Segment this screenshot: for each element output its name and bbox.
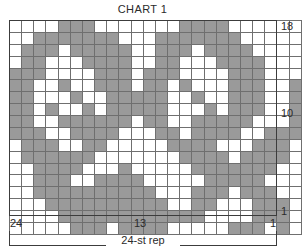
stitch-cell[interactable] [265, 68, 277, 80]
stitch-cell[interactable] [228, 163, 240, 175]
stitch-cell[interactable] [265, 32, 277, 44]
stitch-cell[interactable] [70, 21, 82, 33]
stitch-cell[interactable] [155, 21, 167, 33]
stitch-cell[interactable] [240, 151, 252, 163]
stitch-cell[interactable] [22, 211, 34, 223]
stitch-cell[interactable] [95, 163, 107, 175]
stitch-cell[interactable] [155, 187, 167, 199]
stitch-cell[interactable] [143, 116, 155, 128]
stitch-cell[interactable] [168, 44, 180, 56]
stitch-cell[interactable] [204, 80, 216, 92]
stitch-cell[interactable] [168, 139, 180, 151]
stitch-cell[interactable] [107, 127, 119, 139]
stitch-cell[interactable] [265, 116, 277, 128]
stitch-cell[interactable] [46, 211, 58, 223]
stitch-cell[interactable] [82, 116, 94, 128]
stitch-cell[interactable] [10, 32, 22, 44]
stitch-cell[interactable] [119, 127, 131, 139]
stitch-cell[interactable] [204, 199, 216, 211]
stitch-cell[interactable] [204, 139, 216, 151]
stitch-cell[interactable] [277, 127, 289, 139]
stitch-cell[interactable] [277, 32, 289, 44]
stitch-cell[interactable] [22, 116, 34, 128]
stitch-cell[interactable] [192, 187, 204, 199]
stitch-cell[interactable] [10, 151, 22, 163]
stitch-cell[interactable] [216, 32, 228, 44]
stitch-cell[interactable] [58, 21, 70, 33]
stitch-cell[interactable] [240, 92, 252, 104]
stitch-cell[interactable] [95, 68, 107, 80]
stitch-cell[interactable] [107, 56, 119, 68]
stitch-cell[interactable] [216, 211, 228, 223]
stitch-cell[interactable] [155, 32, 167, 44]
stitch-cell[interactable] [289, 211, 301, 223]
stitch-cell[interactable] [168, 32, 180, 44]
stitch-cell[interactable] [168, 175, 180, 187]
stitch-cell[interactable] [216, 116, 228, 128]
stitch-cell[interactable] [119, 104, 131, 116]
stitch-cell[interactable] [155, 68, 167, 80]
stitch-cell[interactable] [22, 56, 34, 68]
stitch-cell[interactable] [192, 32, 204, 44]
stitch-cell[interactable] [204, 92, 216, 104]
stitch-cell[interactable] [253, 175, 265, 187]
stitch-cell[interactable] [34, 127, 46, 139]
stitch-cell[interactable] [22, 80, 34, 92]
stitch-cell[interactable] [155, 44, 167, 56]
stitch-cell[interactable] [10, 187, 22, 199]
stitch-cell[interactable] [228, 211, 240, 223]
stitch-cell[interactable] [95, 127, 107, 139]
stitch-cell[interactable] [289, 199, 301, 211]
stitch-cell[interactable] [46, 56, 58, 68]
stitch-cell[interactable] [131, 139, 143, 151]
stitch-cell[interactable] [46, 175, 58, 187]
stitch-cell[interactable] [253, 151, 265, 163]
stitch-cell[interactable] [58, 104, 70, 116]
stitch-cell[interactable] [107, 163, 119, 175]
stitch-cell[interactable] [46, 116, 58, 128]
stitch-cell[interactable] [192, 211, 204, 223]
stitch-cell[interactable] [228, 21, 240, 33]
stitch-cell[interactable] [131, 44, 143, 56]
stitch-cell[interactable] [82, 163, 94, 175]
stitch-cell[interactable] [10, 21, 22, 33]
stitch-cell[interactable] [10, 127, 22, 139]
stitch-cell[interactable] [131, 21, 143, 33]
stitch-cell[interactable] [277, 175, 289, 187]
stitch-cell[interactable] [107, 44, 119, 56]
stitch-cell[interactable] [119, 68, 131, 80]
stitch-cell[interactable] [22, 187, 34, 199]
stitch-cell[interactable] [289, 187, 301, 199]
stitch-cell[interactable] [70, 104, 82, 116]
stitch-cell[interactable] [22, 127, 34, 139]
stitch-cell[interactable] [228, 199, 240, 211]
stitch-cell[interactable] [192, 139, 204, 151]
stitch-cell[interactable] [216, 175, 228, 187]
stitch-cell[interactable] [192, 80, 204, 92]
stitch-cell[interactable] [119, 139, 131, 151]
stitch-cell[interactable] [180, 104, 192, 116]
stitch-cell[interactable] [180, 68, 192, 80]
stitch-cell[interactable] [155, 211, 167, 223]
stitch-cell[interactable] [216, 187, 228, 199]
stitch-cell[interactable] [228, 104, 240, 116]
stitch-cell[interactable] [289, 80, 301, 92]
stitch-cell[interactable] [46, 139, 58, 151]
stitch-cell[interactable] [277, 80, 289, 92]
stitch-cell[interactable] [143, 80, 155, 92]
stitch-cell[interactable] [253, 211, 265, 223]
stitch-cell[interactable] [22, 151, 34, 163]
stitch-cell[interactable] [70, 80, 82, 92]
stitch-cell[interactable] [46, 80, 58, 92]
stitch-cell[interactable] [10, 116, 22, 128]
stitch-cell[interactable] [192, 44, 204, 56]
stitch-cell[interactable] [240, 44, 252, 56]
stitch-cell[interactable] [265, 175, 277, 187]
stitch-cell[interactable] [204, 44, 216, 56]
stitch-cell[interactable] [107, 68, 119, 80]
stitch-cell[interactable] [95, 211, 107, 223]
stitch-cell[interactable] [204, 21, 216, 33]
stitch-cell[interactable] [58, 92, 70, 104]
stitch-cell[interactable] [58, 80, 70, 92]
stitch-cell[interactable] [240, 127, 252, 139]
